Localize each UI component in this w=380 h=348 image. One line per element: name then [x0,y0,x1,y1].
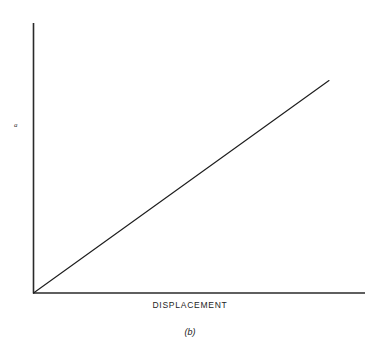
plot-canvas [0,0,380,348]
figure-caption: (b) [0,327,380,337]
x-axis-label: DISPLACEMENT [0,300,380,310]
y-axis-label: a [14,121,18,129]
figure-container: a DISPLACEMENT (b) [0,0,380,348]
data-series-line [34,81,330,294]
